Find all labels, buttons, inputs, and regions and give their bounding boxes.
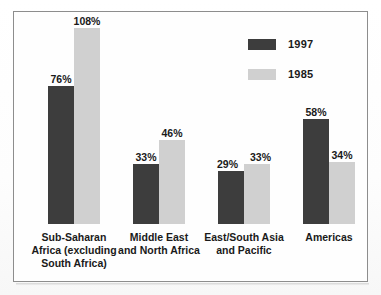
category-label-line-2: and Pacific: [204, 244, 284, 257]
category-label-middle-east-north-africa: Middle East and North Africa: [118, 231, 200, 257]
bar-1997-east-south-asia-pacific[interactable]: [218, 171, 244, 224]
category-label-east-south-asia-pacific: East/South Asia and Pacific: [204, 231, 284, 257]
chart-legend: 1997 1985: [248, 38, 358, 98]
category-label-line-1: East/South Asia: [204, 231, 284, 244]
plot-area: 1997 1985 76% 108% Sub-Saharan: [14, 12, 367, 281]
legend-entry-1985: 1985: [248, 68, 358, 81]
bar-1985-sub-saharan-africa[interactable]: [74, 28, 100, 224]
chart-frame: 1997 1985 76% 108% Sub-Saharan: [13, 11, 368, 282]
bar-wrap-1985-americas: 34%: [329, 162, 355, 224]
bar-wrap-1985-east-south-asia-pacific: 33%: [244, 164, 270, 224]
bars-middle-east-north-africa: 33% 46%: [133, 140, 185, 224]
bar-wrap-1997-sub-saharan-africa: 76%: [48, 86, 74, 224]
legend-swatch-1997: [248, 39, 276, 50]
bar-value-1985-americas: 34%: [331, 149, 352, 162]
bar-value-1985-middle-east-north-africa: 46%: [161, 127, 182, 140]
category-label-americas: Americas: [305, 231, 352, 244]
bar-1985-middle-east-north-africa[interactable]: [159, 140, 185, 224]
category-label-line-1: Sub-Saharan: [31, 231, 116, 244]
legend-label-1985: 1985: [288, 69, 313, 80]
category-label-line-2: and North Africa: [118, 244, 200, 257]
bar-value-1997-sub-saharan-africa: 76%: [50, 73, 71, 86]
bar-wrap-1997-americas: 58%: [303, 119, 329, 224]
bar-value-1985-sub-saharan-africa: 108%: [74, 15, 101, 28]
bar-value-1997-middle-east-north-africa: 33%: [135, 151, 156, 164]
bar-value-1985-east-south-asia-pacific: 33%: [250, 151, 271, 164]
category-label-sub-saharan-africa: Sub-Saharan Africa (excluding South Afri…: [31, 231, 116, 270]
bar-1997-americas[interactable]: [303, 119, 329, 224]
page-shadow: [16, 283, 369, 286]
legend-swatch-1985: [248, 69, 276, 80]
bar-value-1997-east-south-asia-pacific: 29%: [217, 158, 238, 171]
bar-1985-east-south-asia-pacific[interactable]: [244, 164, 270, 224]
bars-sub-saharan-africa: 76% 108%: [48, 28, 100, 224]
bar-1997-middle-east-north-africa[interactable]: [133, 164, 159, 224]
category-label-line-1: Americas: [305, 231, 352, 244]
bars-americas: 58% 34%: [303, 119, 355, 224]
bars-east-south-asia-pacific: 29% 33%: [218, 164, 270, 224]
bar-value-1997-americas: 58%: [305, 106, 326, 119]
legend-label-1997: 1997: [288, 39, 313, 50]
legend-entry-1997: 1997: [248, 38, 358, 51]
category-label-line-3: South Africa): [31, 257, 116, 270]
bar-1997-sub-saharan-africa[interactable]: [48, 86, 74, 224]
bar-wrap-1985-sub-saharan-africa: 108%: [74, 28, 100, 224]
bar-wrap-1997-middle-east-north-africa: 33%: [133, 164, 159, 224]
category-label-line-1: Middle East: [118, 231, 200, 244]
bar-wrap-1985-middle-east-north-africa: 46%: [159, 140, 185, 224]
bar-wrap-1997-east-south-asia-pacific: 29%: [218, 171, 244, 224]
bar-1985-americas[interactable]: [329, 162, 355, 224]
category-label-line-2: Africa (excluding: [31, 244, 116, 257]
